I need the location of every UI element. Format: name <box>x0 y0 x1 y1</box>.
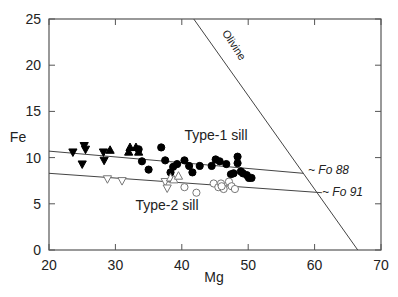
data-point <box>78 161 86 169</box>
data-point <box>231 185 238 192</box>
x-tick-label: 70 <box>373 257 389 273</box>
y-tick-label: 20 <box>25 57 41 73</box>
x-tick-label: 30 <box>108 257 124 273</box>
data-point <box>237 168 244 175</box>
type1-label: Type-1 sill <box>184 127 247 143</box>
data-point <box>163 185 171 193</box>
data-point <box>135 146 142 153</box>
x-tick-label: 40 <box>174 257 190 273</box>
data-point <box>216 158 223 165</box>
data-point <box>103 176 111 184</box>
data-point <box>189 169 196 176</box>
data-point <box>218 183 225 190</box>
data-point <box>100 157 108 165</box>
fo91-label: ~ Fo 91 <box>322 185 363 199</box>
x-axis-label: Mg <box>204 269 223 285</box>
olivine-label: Olivine <box>220 27 248 62</box>
data-point <box>223 160 230 167</box>
x-tick-label: 50 <box>240 257 256 273</box>
y-tick-label: 5 <box>33 196 41 212</box>
y-tick-label: 10 <box>25 150 41 166</box>
data-points <box>69 142 255 196</box>
x-tick-label: 60 <box>307 257 323 273</box>
data-point <box>193 189 200 196</box>
data-point <box>145 166 152 173</box>
scatter-chart: 2030405060700510152025 Mg Fe Type-1 sill… <box>0 0 398 297</box>
data-point <box>230 170 237 177</box>
data-point <box>196 162 203 169</box>
data-point <box>118 178 126 186</box>
data-point <box>81 146 89 154</box>
y-tick-label: 0 <box>33 242 41 258</box>
data-point <box>181 184 188 191</box>
y-tick-label: 25 <box>25 11 41 27</box>
data-point <box>174 172 182 180</box>
fo88-label: ~ Fo 88 <box>308 163 349 177</box>
y-tick-label: 15 <box>25 103 41 119</box>
data-point <box>174 160 181 167</box>
data-point <box>234 160 241 167</box>
x-tick-label: 20 <box>41 257 57 273</box>
data-point <box>158 144 165 151</box>
data-point <box>245 174 252 181</box>
type2-label: Type-2 sill <box>135 197 198 213</box>
data-point <box>208 162 215 169</box>
y-axis-label: Fe <box>10 129 27 145</box>
data-point <box>162 157 169 164</box>
data-point <box>138 158 145 165</box>
